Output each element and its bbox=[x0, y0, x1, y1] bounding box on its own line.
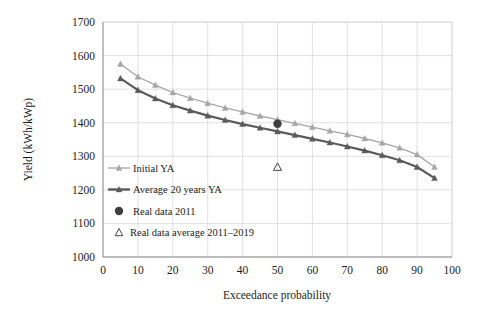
y-tick-label: 1700 bbox=[72, 16, 95, 28]
y-axis-title: Yield (kWh/kWp) bbox=[22, 98, 35, 182]
y-tick-label: 1100 bbox=[72, 217, 95, 229]
x-tick-label: 30 bbox=[202, 264, 214, 276]
x-tick-label: 50 bbox=[272, 264, 284, 276]
y-tick-label: 1600 bbox=[72, 50, 95, 62]
x-tick-label: 100 bbox=[443, 264, 461, 276]
legend-label: Real data 2011 bbox=[133, 206, 196, 217]
real-data-2011-marker bbox=[273, 120, 281, 128]
x-tick-label: 90 bbox=[411, 264, 423, 276]
y-tick-label: 1300 bbox=[72, 150, 95, 162]
x-tick-label: 80 bbox=[376, 264, 388, 276]
y-tick-label: 1400 bbox=[72, 117, 95, 129]
legend-label: Initial YA bbox=[133, 163, 175, 174]
y-tick-label: 1000 bbox=[72, 251, 95, 263]
legend-circle-icon bbox=[115, 207, 123, 215]
x-tick-label: 0 bbox=[100, 264, 106, 276]
legend-label: Average 20 years YA bbox=[133, 184, 222, 195]
x-tick-label: 70 bbox=[342, 264, 354, 276]
x-tick-label: 20 bbox=[167, 264, 179, 276]
x-tick-label: 40 bbox=[237, 264, 249, 276]
x-tick-label: 60 bbox=[307, 264, 319, 276]
y-tick-label: 1200 bbox=[72, 184, 95, 196]
x-axis-title: Exceedance probability bbox=[223, 289, 331, 302]
chart-container: 17001600150014001300120011001000 0102030… bbox=[0, 0, 479, 317]
legend-item: Real data average 2011–2019 bbox=[115, 227, 254, 238]
y-tick-label: 1500 bbox=[72, 83, 95, 95]
x-tick-label: 10 bbox=[132, 264, 144, 276]
yield-exceedance-line-chart: 17001600150014001300120011001000 0102030… bbox=[0, 0, 479, 317]
legend-label: Real data average 2011–2019 bbox=[130, 227, 254, 238]
